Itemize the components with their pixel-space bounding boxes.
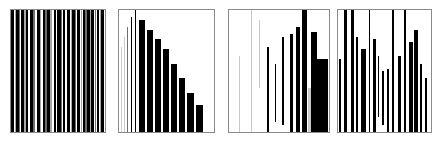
bar [135, 10, 137, 132]
bar [131, 17, 132, 132]
bar [369, 10, 370, 132]
bar [251, 10, 252, 132]
bar [317, 59, 328, 132]
chart-panel-1 [10, 9, 106, 133]
bar [171, 64, 177, 132]
bar [420, 64, 422, 132]
bar [356, 37, 358, 132]
bar [196, 105, 203, 132]
bar [124, 37, 125, 132]
bar [26, 10, 28, 132]
bar [275, 64, 277, 123]
chart-panel-3 [228, 9, 330, 133]
bar [267, 47, 269, 132]
bar [239, 56, 240, 132]
bar [387, 69, 388, 132]
bar [296, 27, 300, 132]
figure-container [0, 0, 438, 146]
plot-area-1 [11, 10, 105, 132]
bar [179, 78, 185, 132]
bar [282, 37, 284, 125]
bar [127, 27, 128, 132]
plot-area-3 [229, 10, 329, 132]
bar [311, 32, 317, 132]
chart-panel-2 [118, 9, 215, 133]
bar [101, 10, 104, 132]
bar [75, 10, 76, 132]
bar [139, 20, 145, 132]
bar [398, 56, 401, 132]
bar [425, 78, 427, 132]
bar [392, 10, 393, 132]
bar [382, 71, 384, 125]
bar [155, 39, 161, 132]
bar [121, 47, 122, 132]
bar [50, 10, 51, 132]
bar [351, 10, 354, 132]
bar [378, 56, 380, 117]
bar [54, 10, 56, 132]
bar [187, 93, 193, 132]
bar [302, 10, 308, 132]
bar [163, 49, 169, 132]
bar [63, 10, 65, 132]
bar [409, 42, 413, 132]
bar [40, 10, 41, 132]
bar [147, 30, 153, 132]
bar [339, 59, 341, 132]
bar [361, 49, 366, 132]
figure-caption [6, 137, 306, 145]
bar [404, 10, 406, 132]
bar [344, 10, 347, 132]
plot-area-4 [338, 10, 431, 132]
bar [414, 30, 417, 132]
bar [373, 39, 376, 132]
chart-panel-4 [337, 9, 432, 133]
bar [290, 34, 293, 132]
plot-area-2 [119, 10, 214, 132]
bar [33, 10, 34, 132]
bar [259, 20, 260, 88]
